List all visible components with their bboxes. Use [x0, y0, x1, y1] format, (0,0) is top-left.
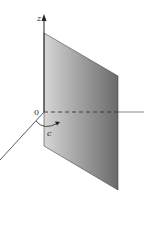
z-axis-arrowhead-icon [42, 14, 47, 21]
half-plane [44, 33, 118, 190]
angle-label: c [47, 129, 52, 138]
origin-label: 0 [34, 108, 39, 117]
z-axis-label: z [36, 14, 42, 23]
diagram-canvas: z 0 c [0, 0, 144, 230]
x-axis [0, 112, 44, 160]
